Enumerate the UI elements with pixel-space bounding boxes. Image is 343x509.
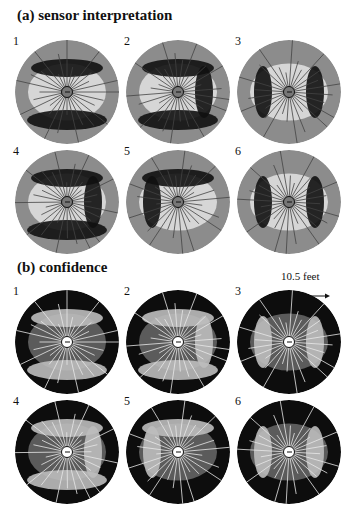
panel-a-map-4-label: 4 (13, 144, 19, 159)
panel-a-occupancy-map-4 (15, 150, 119, 254)
panel-b-map-1-label: 1 (13, 284, 19, 299)
panel-a-occupancy-map-1 (15, 40, 119, 144)
panel-b-occupancy-map-3 (237, 290, 341, 394)
panel-a-map-6-label: 6 (235, 144, 241, 159)
scale-label: 10.5 feet (281, 270, 319, 282)
panel-a-occupancy-map-6 (237, 150, 341, 254)
panel-b-occupancy-map-2 (126, 290, 230, 394)
panel-b-occupancy-map-5 (126, 400, 230, 504)
panel-b-occupancy-map-6 (237, 400, 341, 504)
panel-a-map-5-label: 5 (124, 144, 130, 159)
panel-b-map-5-label: 5 (124, 394, 130, 409)
panel-b-occupancy-map-4 (15, 400, 119, 504)
panel-a-title: (a) sensor interpretation (17, 7, 172, 24)
panel-b-title: (b) confidence (17, 259, 107, 276)
panel-a-map-1-label: 1 (13, 34, 19, 49)
panel-b-occupancy-map-1 (15, 290, 119, 394)
panel-a-map-2-label: 2 (124, 34, 130, 49)
panel-a-map-3-label: 3 (235, 34, 241, 49)
panel-b-map-2-label: 2 (124, 284, 130, 299)
panel-a-occupancy-map-2 (126, 40, 230, 144)
panel-b-map-4-label: 4 (13, 394, 19, 409)
panel-b-map-3-label: 3 (235, 284, 241, 299)
panel-b-map-6-label: 6 (235, 394, 241, 409)
panel-a-occupancy-map-3 (237, 40, 341, 144)
panel-a-occupancy-map-5 (126, 150, 230, 254)
